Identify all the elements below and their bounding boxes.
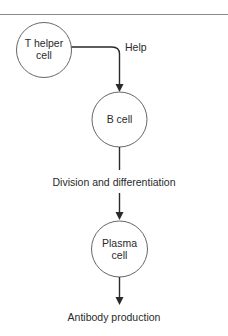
help-connector [72,47,120,85]
b-cell-label: B cell [92,113,147,125]
b-cell-line1: B cell [92,113,147,125]
plasma-line1: Plasma [92,237,147,249]
t-helper-line2: cell [16,49,72,61]
arrow-head-icon [116,297,124,305]
help-label: Help [125,41,147,53]
antibody-label: Antibody production [0,311,228,323]
plasma-cell-label: Plasma cell [92,237,147,261]
arrow-head-icon [116,212,124,220]
arrow-head-icon [116,84,124,92]
t-helper-line1: T helper [16,37,72,49]
t-helper-label: T helper cell [16,37,72,61]
plasma-line2: cell [92,249,147,261]
division-label: Division and differentiation [0,176,228,188]
